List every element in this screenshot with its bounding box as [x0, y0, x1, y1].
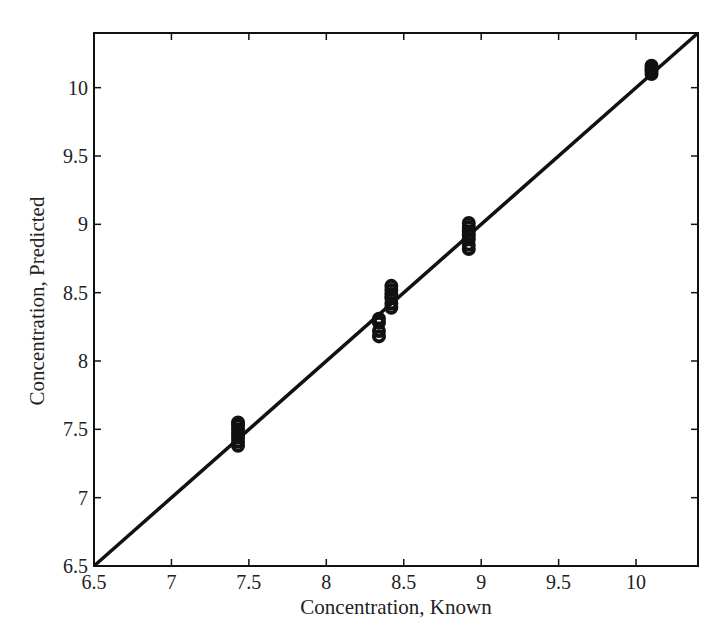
y-axis-label: Concentration, Predicted: [25, 196, 49, 405]
y-tick-label: 9: [78, 213, 88, 235]
y-tick-label: 6.5: [63, 555, 88, 577]
scatter-plot: 6.577.588.599.510 6.577.588.599.510 Conc…: [0, 0, 727, 641]
y-tick-label: 10: [68, 77, 88, 99]
y-tick-label: 7: [78, 487, 88, 509]
x-tick-label: 8.5: [391, 571, 416, 593]
y-tick-label: 8.5: [63, 282, 88, 304]
x-tick-label: 10: [626, 571, 646, 593]
y-tick-label: 9.5: [63, 145, 88, 167]
x-tick-label: 7.5: [236, 571, 261, 593]
y-tick-label: 7.5: [63, 418, 88, 440]
x-tick-label: 9: [476, 571, 486, 593]
x-tick-label: 9.5: [546, 571, 571, 593]
y-tick-label: 8: [78, 350, 88, 372]
x-tick-label: 7: [166, 571, 176, 593]
x-axis-ticks: 6.577.588.599.510: [82, 33, 647, 593]
x-tick-label: 8: [321, 571, 331, 593]
x-axis-label: Concentration, Known: [300, 595, 492, 619]
